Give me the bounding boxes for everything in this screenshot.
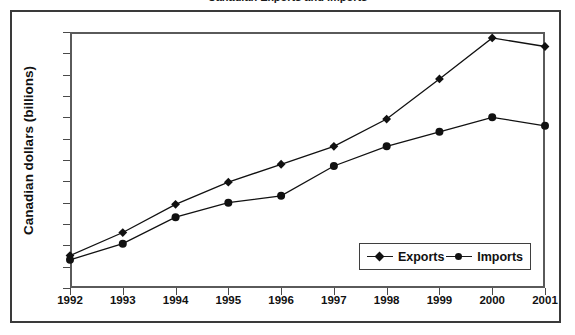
- y-tick-mark: [63, 203, 70, 204]
- exports-marker-icon: [367, 252, 393, 262]
- y-tick-mark: [63, 75, 70, 76]
- x-tick-label: 1998: [357, 295, 417, 307]
- x-tick-mark: [228, 288, 229, 295]
- x-tick-label: 2000: [462, 295, 522, 307]
- x-tick-label: 1999: [409, 295, 469, 307]
- y-tick-mark: [63, 245, 70, 246]
- y-tick-mark: [63, 117, 70, 118]
- y-tick-mark: [63, 139, 70, 140]
- y-tick-mark: [63, 160, 70, 161]
- y-tick-mark: [63, 181, 70, 182]
- x-tick-mark: [70, 288, 71, 295]
- x-tick-label: 1992: [40, 295, 100, 307]
- x-tick-mark: [334, 288, 335, 295]
- x-tick-mark: [176, 288, 177, 295]
- x-tick-mark: [492, 288, 493, 295]
- y-tick-mark: [63, 53, 70, 54]
- chart-title-fragment: Canadian Exports and Imports: [0, 0, 575, 3]
- x-tick-mark: [123, 288, 124, 295]
- x-tick-mark: [387, 288, 388, 295]
- y-axis-label: Canadian dollars (billions): [21, 41, 36, 261]
- imports-marker-icon: [446, 252, 472, 262]
- x-tick-mark: [281, 288, 282, 295]
- legend-entry-exports: Exports: [367, 250, 445, 264]
- chart-legend: Exports Imports: [359, 243, 531, 270]
- legend-entry-imports: Imports: [446, 250, 523, 264]
- x-tick-label: 1996: [251, 295, 311, 307]
- legend-label-imports: Imports: [477, 250, 523, 264]
- y-tick-mark: [63, 288, 70, 289]
- legend-label-exports: Exports: [398, 250, 445, 264]
- chart-figure: Canadian Exports and Imports Canadian do…: [0, 0, 575, 335]
- x-tick-label: 1997: [304, 295, 364, 307]
- y-tick-mark: [63, 224, 70, 225]
- x-tick-label: 1993: [93, 295, 153, 307]
- y-tick-mark: [63, 267, 70, 268]
- x-tick-mark: [439, 288, 440, 295]
- x-tick-mark: [545, 288, 546, 295]
- y-tick-mark: [63, 32, 70, 33]
- y-tick-mark: [63, 96, 70, 97]
- x-tick-label: 1994: [146, 295, 206, 307]
- x-tick-label: 1995: [198, 295, 258, 307]
- x-tick-label: 2001: [515, 295, 575, 307]
